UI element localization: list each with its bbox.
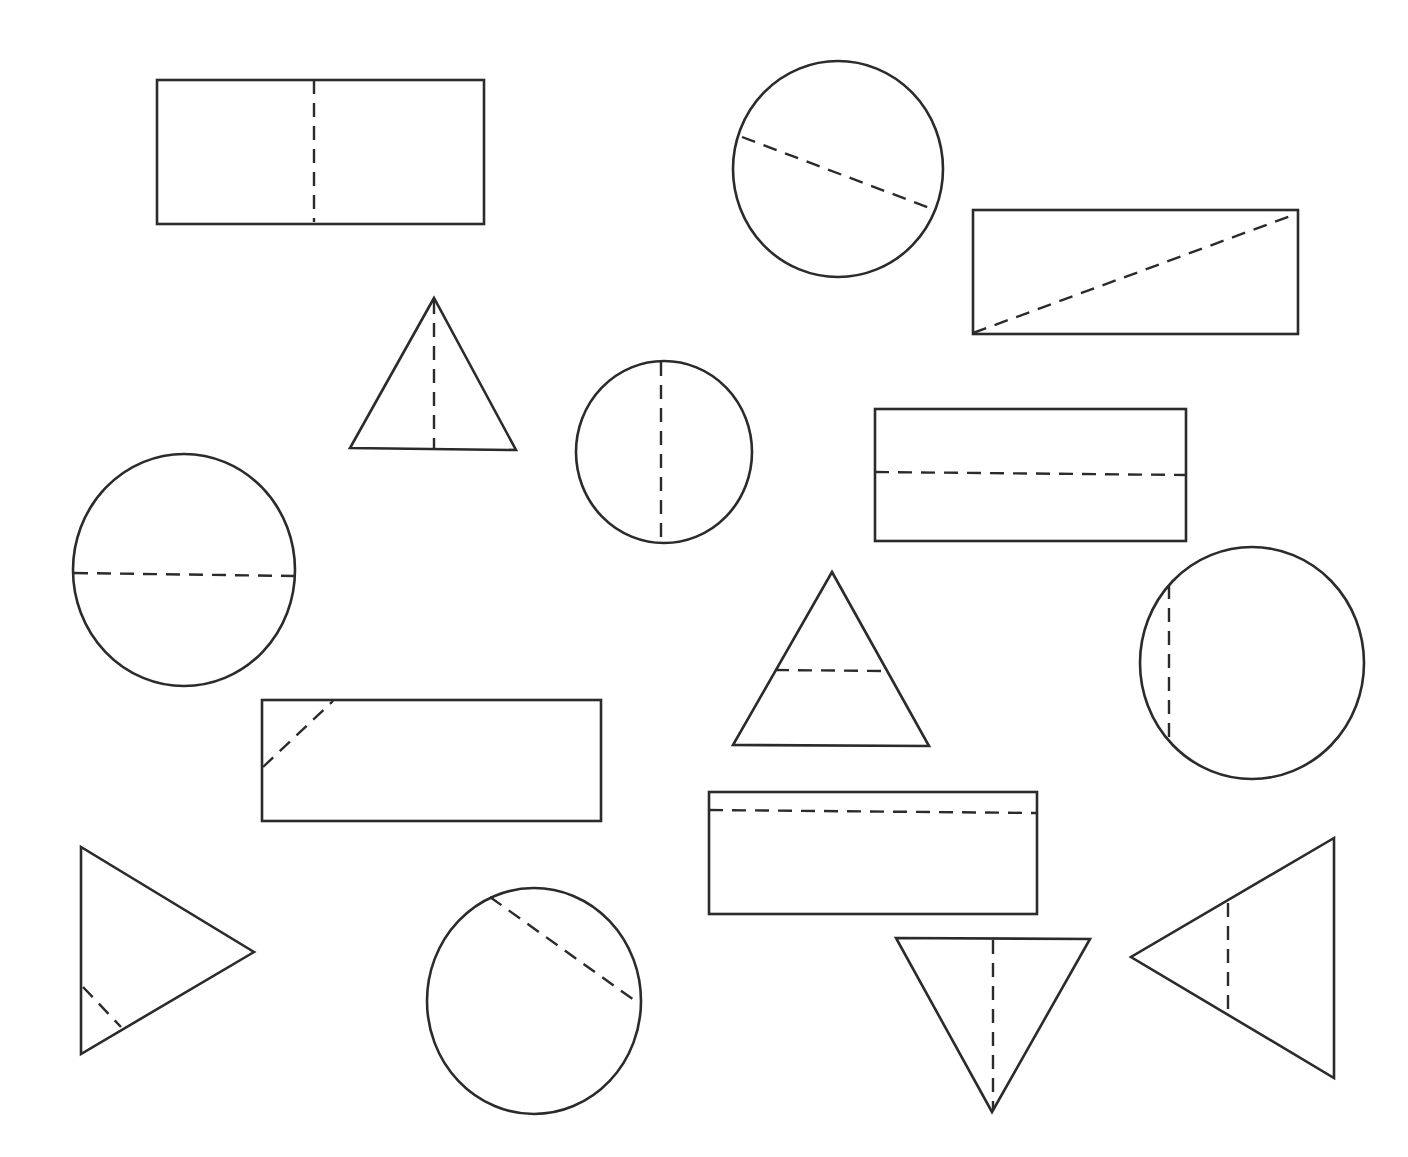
rectangle-shape (262, 700, 601, 821)
dashed-fold-line (263, 701, 333, 767)
triangle-shape (733, 572, 929, 746)
dashed-fold-line (875, 472, 1186, 475)
circle-outline (576, 361, 752, 543)
triangle-outline (733, 572, 929, 746)
circle-outline (73, 454, 295, 686)
dashed-fold-line (83, 987, 121, 1027)
triangle-shape (81, 847, 254, 1054)
dashed-fold-line (973, 214, 1296, 333)
triangle-outline (1131, 838, 1334, 1078)
rectangle-outline (262, 700, 601, 821)
circle-outline (733, 61, 943, 277)
circle-shape (1140, 547, 1364, 779)
circle-shape (733, 61, 943, 277)
rectangle-outline (157, 80, 484, 224)
triangle-shape (350, 298, 516, 450)
shapes-layer (73, 61, 1364, 1114)
triangle-outline (81, 847, 254, 1054)
shapes-worksheet (0, 0, 1408, 1157)
circle-outline (427, 888, 641, 1114)
dashed-fold-line (490, 897, 634, 1000)
circle-shape (576, 361, 752, 543)
circle-outline (1140, 547, 1364, 779)
dashed-fold-line (742, 137, 935, 210)
dashed-fold-line (775, 670, 884, 671)
triangle-shape (896, 938, 1090, 1112)
rectangle-shape (875, 409, 1186, 541)
rectangle-shape (157, 80, 484, 224)
circle-shape (73, 454, 295, 686)
circle-shape (427, 888, 641, 1114)
dashed-fold-line (709, 810, 1036, 813)
rectangle-shape (973, 210, 1298, 334)
rectangle-shape (709, 792, 1037, 914)
dashed-fold-line (74, 573, 294, 576)
triangle-shape (1131, 838, 1334, 1078)
